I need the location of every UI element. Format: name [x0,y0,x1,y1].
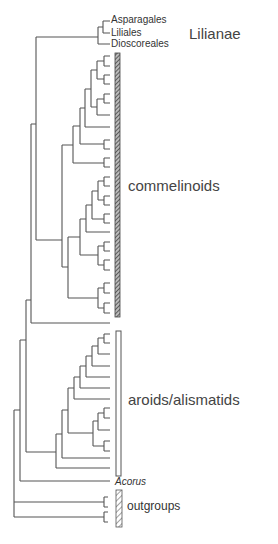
aroids-bar [116,331,121,476]
group-label-outgroups: outgroups [127,500,180,512]
group-label-lilianae: Lilianae [189,26,241,41]
taxon-acorus: Acorus [115,477,146,487]
group-label-commelinoids: commelinoids [128,178,220,193]
group-label-aroids: aroids/alismatids [128,392,240,407]
taxon-liliales: Liliales [111,28,142,38]
commelinoids-bar [115,53,120,317]
cladogram-tree [0,0,278,544]
outgroups-bar [116,490,122,527]
taxon-asparagales: Asparagales [111,15,167,25]
taxon-dioscoreales: Dioscoreales [111,39,169,49]
